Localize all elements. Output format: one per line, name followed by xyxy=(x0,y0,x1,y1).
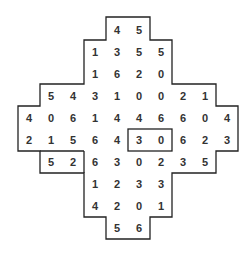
grid-cell: 2 xyxy=(106,195,128,217)
grid-cell: 1 xyxy=(84,173,106,195)
grid-cell: 1 xyxy=(84,41,106,63)
grid-cell: 6 xyxy=(150,107,172,129)
grid-cell: 2 xyxy=(62,151,84,173)
grid-cell: 4 xyxy=(128,107,150,129)
grid-cell: 4 xyxy=(106,19,128,41)
grid-cell: 2 xyxy=(128,63,150,85)
grid-cell: 5 xyxy=(150,41,172,63)
grid-cell: 6 xyxy=(62,107,84,129)
grid-cell: 0 xyxy=(40,107,62,129)
grid-cell: 6 xyxy=(128,217,150,239)
grid-cell: 5 xyxy=(128,19,150,41)
grid-cell: 4 xyxy=(62,85,84,107)
grid-cell: 2 xyxy=(106,173,128,195)
grid-cell: 3 xyxy=(106,151,128,173)
grid-cell: 5 xyxy=(40,151,62,173)
grid-cell: 2 xyxy=(172,85,194,107)
grid-cell: 3 xyxy=(172,151,194,173)
grid-cell: 4 xyxy=(216,107,238,129)
grid-cell: 0 xyxy=(128,85,150,107)
grid-cell: 4 xyxy=(18,107,40,129)
grid-cell: 0 xyxy=(150,85,172,107)
grid-cell: 1 xyxy=(40,129,62,151)
grid-cell: 4 xyxy=(106,129,128,151)
grid-cell: 2 xyxy=(150,151,172,173)
grid-cell: 6 xyxy=(172,129,194,151)
grid-cell: 1 xyxy=(106,85,128,107)
grid-cell: 3 xyxy=(106,41,128,63)
grid-cell: 3 xyxy=(128,173,150,195)
grid-cell: 2 xyxy=(194,129,216,151)
grid-cell: 3 xyxy=(84,85,106,107)
grid-cell: 4 xyxy=(84,195,106,217)
grid-cell: 6 xyxy=(84,151,106,173)
grid-cell: 2 xyxy=(18,129,40,151)
grid-cell: 1 xyxy=(150,195,172,217)
grid-cell: 4 xyxy=(106,107,128,129)
grid-cell: 1 xyxy=(84,63,106,85)
grid-cell: 5 xyxy=(106,217,128,239)
grid-cell: 0 xyxy=(128,195,150,217)
grid-cell: 5 xyxy=(194,151,216,173)
grid-cell: 3 xyxy=(150,173,172,195)
grid-cell: 3 xyxy=(216,129,238,151)
grid-cell: 6 xyxy=(84,129,106,151)
grid-cell: 0 xyxy=(128,151,150,173)
grid-cell: 1 xyxy=(84,107,106,129)
domino-puzzle-board: 4513551620543100214061446604215643062352… xyxy=(0,0,251,263)
grid-cell: 5 xyxy=(128,41,150,63)
grid-cell: 6 xyxy=(172,107,194,129)
grid-cell: 6 xyxy=(106,63,128,85)
grid-cell: 5 xyxy=(40,85,62,107)
grid-cell: 0 xyxy=(194,107,216,129)
grid-cell: 0 xyxy=(150,129,172,151)
grid-cell: 3 xyxy=(128,129,150,151)
grid-cell: 1 xyxy=(194,85,216,107)
grid-cell: 5 xyxy=(62,129,84,151)
grid-cell: 0 xyxy=(150,63,172,85)
